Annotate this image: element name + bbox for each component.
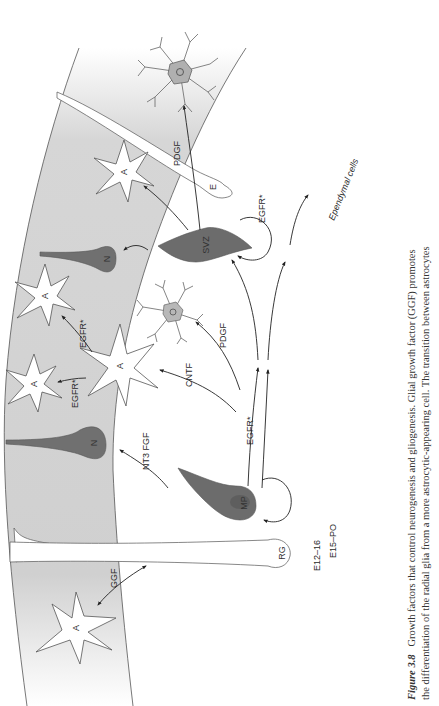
self-renew-mp xyxy=(262,478,291,522)
svg-text:A: A xyxy=(40,293,50,299)
ependymal-label: E xyxy=(208,184,218,190)
svg-text:A: A xyxy=(115,363,125,369)
label-cntf: CNTF xyxy=(184,363,194,387)
label-egfr-main: EGFR* xyxy=(245,416,255,445)
arrow-mp-right xyxy=(262,370,268,488)
arrow-right-ependymal xyxy=(290,195,308,245)
label-nt3-fgf: NT3 FGF xyxy=(141,432,151,470)
arrow-egfr-right xyxy=(268,262,285,360)
svg-text:A: A xyxy=(119,169,129,175)
arrow-egfr-cntf xyxy=(160,370,236,412)
label-pdgf-upper: PDGF xyxy=(218,322,228,348)
label-stage-late: E15–PO xyxy=(328,524,338,558)
svg-text:RG: RG xyxy=(277,546,287,560)
label-egfr-astro-2: EGFR* xyxy=(70,379,80,408)
label-ggf: GGF xyxy=(109,568,119,588)
multipotent-progenitor: MP xyxy=(178,468,256,520)
label-stage-early: E12–16 xyxy=(312,540,322,571)
svg-text:N: N xyxy=(102,256,112,263)
svg-text:MP: MP xyxy=(239,496,249,510)
svg-text:N: N xyxy=(89,440,99,447)
arrow-egfr-svz xyxy=(232,260,258,360)
label-ependymal-cells: Ependymal cells xyxy=(327,157,361,222)
svg-text:A: A xyxy=(71,625,81,631)
svg-text:SVZ: SVZ xyxy=(201,236,211,254)
svg-text:A: A xyxy=(29,381,39,387)
label-egfr-astro-1: EGFR* xyxy=(78,319,88,348)
figure-diagram: E A A A A A xyxy=(0,0,439,706)
label-pdgf-top: PDGF xyxy=(172,140,182,166)
label-egfr-svz: EGFR* xyxy=(257,194,267,223)
